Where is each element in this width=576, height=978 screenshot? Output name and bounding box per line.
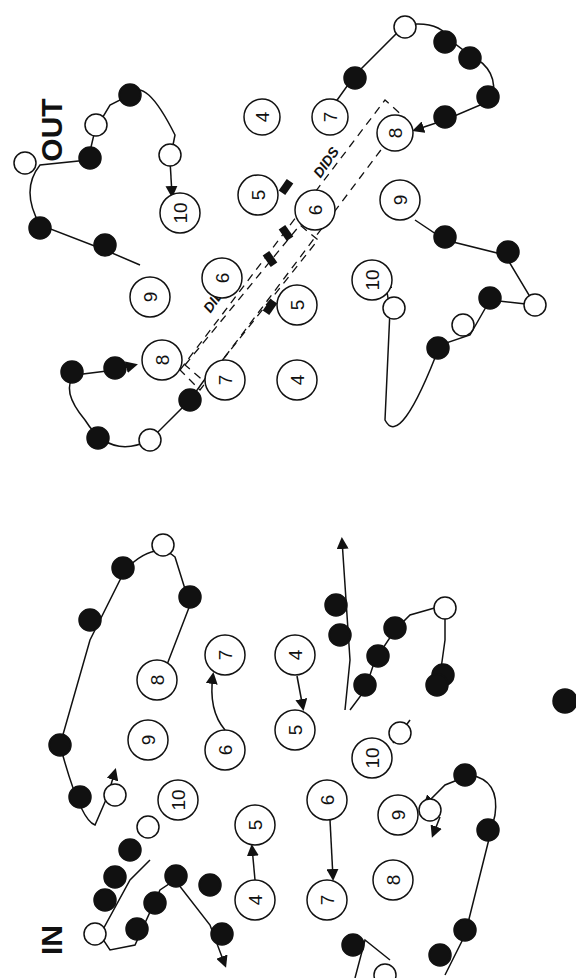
svg-text:4: 4 (252, 111, 273, 122)
svg-text:4: 4 (245, 894, 266, 905)
helix-out-9a: 9 (380, 180, 420, 220)
svg-text:7: 7 (320, 112, 341, 123)
helix-out-5a: 5 (238, 175, 278, 215)
helix-in-7b: 7 (307, 880, 347, 920)
svg-text:7: 7 (215, 650, 236, 661)
dids-boxes (180, 100, 405, 390)
helix-in-9a: 9 (128, 720, 168, 760)
helix-in-10a: 10 (352, 738, 392, 778)
out-residues-lower-left (61, 357, 201, 451)
in-residues-upper-right (325, 594, 576, 713)
out-state-label: OUT (35, 98, 68, 161)
helix-out-8b: 8 (142, 340, 182, 380)
svg-text:7: 7 (215, 375, 236, 386)
svg-text:8: 8 (152, 355, 173, 366)
svg-text:8: 8 (147, 675, 168, 686)
helix-out-6b: 6 (202, 258, 242, 298)
helix-in-7a: 7 (205, 635, 245, 675)
svg-text:6: 6 (317, 795, 338, 806)
svg-text:6: 6 (305, 205, 326, 216)
isolated-residue (553, 689, 576, 713)
helix-in-5a: 5 (275, 710, 315, 750)
svg-text:9: 9 (390, 195, 411, 206)
helix-out-10a: 10 (160, 193, 200, 233)
helix-in-6b: 6 (307, 780, 347, 820)
svg-text:9: 9 (138, 735, 159, 746)
helix-out-6a: 6 (295, 190, 335, 230)
helix-in-4a: 4 (275, 635, 315, 675)
out-residues-lower-right (383, 226, 546, 359)
svg-text:4: 4 (287, 374, 308, 385)
helix-in-8a: 8 (137, 660, 177, 700)
dids-box-upper (180, 100, 405, 390)
topology-diagram: OUT (0, 0, 576, 978)
helix-out-4b: 4 (277, 360, 317, 400)
helix-out-5b: 5 (277, 285, 317, 325)
helix-in-5b: 5 (235, 805, 275, 845)
svg-text:10: 10 (168, 789, 189, 810)
helix-out-4a: 4 (244, 99, 280, 135)
in-residues-upper (49, 534, 201, 808)
in-state-label: IN (35, 925, 68, 955)
svg-text:9: 9 (388, 810, 409, 821)
svg-text:9: 9 (140, 292, 161, 303)
svg-text:10: 10 (170, 202, 191, 223)
helix-in-10b: 10 (158, 780, 198, 820)
helix-in-9b: 9 (378, 795, 418, 835)
svg-text:5: 5 (248, 190, 269, 201)
svg-text:6: 6 (212, 273, 233, 284)
svg-text:8: 8 (383, 875, 404, 886)
helix-out-8a: 8 (377, 115, 413, 151)
svg-text:5: 5 (285, 725, 306, 736)
helix-out-9b: 9 (130, 277, 170, 317)
svg-text:10: 10 (362, 747, 383, 768)
helix-in-8b: 8 (373, 860, 413, 900)
helix-out-7a: 7 (312, 99, 348, 135)
dids-label-1: DIDS (310, 143, 343, 180)
svg-text:8: 8 (385, 128, 406, 139)
svg-text:7: 7 (317, 895, 338, 906)
helix-out-7b: 7 (205, 360, 245, 400)
helix-in-6a: 6 (205, 730, 245, 770)
svg-text:5: 5 (287, 300, 308, 311)
in-helix-arrows (212, 675, 333, 880)
out-residues-upper-right (344, 16, 499, 128)
svg-text:6: 6 (215, 745, 236, 756)
helix-in-4b: 4 (235, 880, 275, 920)
svg-text:4: 4 (285, 649, 306, 660)
helix-out-10b: 10 (352, 260, 392, 300)
svg-text:5: 5 (245, 820, 266, 831)
out-panel: OUT (14, 16, 546, 451)
in-panel: IN (35, 534, 576, 978)
svg-text:10: 10 (362, 269, 383, 290)
